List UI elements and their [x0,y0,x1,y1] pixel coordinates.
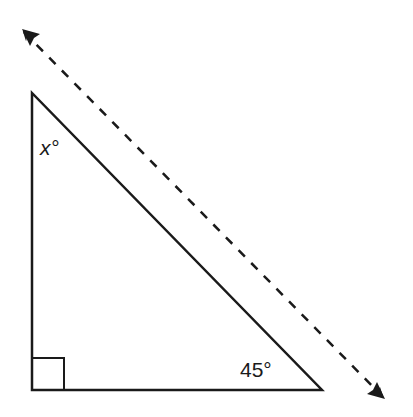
angle-45-label: 45° [240,358,272,382]
dashed-double-arrow-line [22,29,385,399]
angle-x-label: x° [40,136,59,160]
arrow-tip-upper-left-icon [22,29,40,46]
triangle-figure [0,0,413,417]
right-angle-marker [32,358,64,390]
right-triangle [32,93,322,390]
diagram-canvas: x° 45° [0,0,413,417]
